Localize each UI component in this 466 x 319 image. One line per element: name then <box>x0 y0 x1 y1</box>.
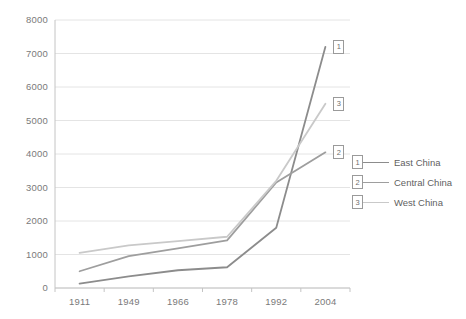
y-axis-tick-label: 8000 <box>4 14 48 25</box>
y-axis-tick-label: 7000 <box>4 48 48 59</box>
legend-label-east-china: East China <box>394 157 440 168</box>
x-axis-ticks <box>55 288 350 292</box>
x-axis-tick-label: 1966 <box>156 296 200 307</box>
legend-marker-2: 2 <box>352 175 363 189</box>
x-axis-tick-label: 1978 <box>205 296 249 307</box>
legend-marker-3: 3 <box>352 195 363 209</box>
legend-item-west-china: 3 West China <box>352 192 452 212</box>
point-label-east-china: 1 <box>333 40 344 54</box>
legend-line-west-china <box>363 202 389 203</box>
legend-item-east-china: 1 East China <box>352 152 452 172</box>
point-label-central-china: 2 <box>333 145 344 159</box>
y-axis-tick-label: 0 <box>4 282 48 293</box>
x-axis-tick-label: 1911 <box>58 296 102 307</box>
legend-label-west-china: West China <box>394 197 443 208</box>
legend-marker-1: 1 <box>352 155 363 169</box>
legend-line-central-china <box>363 182 389 183</box>
legend-label-central-china: Central China <box>394 177 452 188</box>
x-axis-tick-label: 2004 <box>303 296 347 307</box>
x-axis-tick-label: 1949 <box>107 296 151 307</box>
line-chart: 800070006000500040003000200010000 191119… <box>0 0 466 319</box>
legend-line-east-china <box>363 162 389 163</box>
series-line-central-china <box>80 152 326 271</box>
y-axis-tick-label: 5000 <box>4 115 48 126</box>
legend-item-central-china: 2 Central China <box>352 172 452 192</box>
data-series <box>80 47 326 284</box>
gridlines <box>55 20 350 288</box>
y-axis-tick-label: 2000 <box>4 215 48 226</box>
y-axis-tick-label: 6000 <box>4 81 48 92</box>
y-axis-tick-label: 3000 <box>4 182 48 193</box>
x-axis-tick-label: 1992 <box>254 296 298 307</box>
series-line-west-china <box>80 104 326 253</box>
y-axis-tick-label: 1000 <box>4 249 48 260</box>
chart-legend: 1 East China 2 Central China 3 West Chin… <box>352 152 452 212</box>
point-label-west-china: 3 <box>333 97 344 111</box>
y-axis-tick-label: 4000 <box>4 148 48 159</box>
